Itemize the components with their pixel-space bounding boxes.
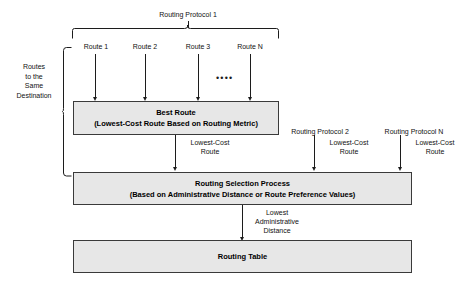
route-n-arrow-line (250, 54, 251, 98)
route-2-label: Route 2 (123, 42, 167, 51)
ellipsis-dots: •••• (216, 74, 233, 83)
lowest-cost-route-n-label: Lowest-CostRoute (404, 138, 466, 156)
routing-selection-process-title: Routing Selection Process (195, 178, 290, 189)
routing-selection-process-subtitle: (Based on Administrative Distance or Rou… (130, 189, 356, 200)
lowest-cost-route-n-line (400, 135, 401, 168)
routing-protocol-1-label: Routing Protocol 1 (140, 10, 236, 19)
best-route-subtitle: (Lowest-Cost Route Based on Routing Metr… (94, 118, 258, 129)
lowest-cost-route-n-arrowhead (398, 167, 402, 171)
route-3-arrow-line (198, 54, 199, 98)
lowest-cost-route-2-line (314, 135, 315, 168)
routing-table-box: Routing Table (73, 240, 412, 273)
routing-table-title: Routing Table (218, 251, 267, 262)
lowest-cost-route-1-arrowhead (173, 167, 177, 171)
route-3-label: Route 3 (176, 42, 220, 51)
routing-selection-process-box: Routing Selection Process (Based on Admi… (73, 172, 412, 205)
lowest-cost-route-1-line (175, 135, 176, 168)
route-n-label: Route N (228, 42, 272, 51)
route-2-arrow-line (145, 54, 146, 98)
routing-protocol-2-label: Routing Protocol 2 (273, 127, 367, 136)
route-1-label: Route 1 (74, 42, 118, 51)
routing-protocol-1-bracket (72, 25, 279, 39)
lowest-cost-route-2-label: Lowest-CostRoute (318, 138, 380, 156)
routes-same-destination-label: Routesto theSameDestination (6, 62, 62, 100)
lowest-cost-route-1-label: Lowest-CostRoute (179, 138, 241, 156)
lowest-cost-route-2-arrowhead (312, 167, 316, 171)
routing-protocol-n-label: Routing Protocol N (367, 127, 461, 136)
routing-selection-diagram: Routing Protocol 1 Route 1 Route 2 Route… (0, 0, 469, 289)
routing-protocol-1-tick (188, 21, 189, 28)
lowest-admin-distance-label: LowestAdministrativeDistance (246, 208, 308, 235)
lowest-admin-distance-line (242, 205, 243, 238)
route-1-arrow-line (95, 54, 96, 98)
best-route-title: Best Route (156, 107, 196, 118)
routes-same-destination-bracket (62, 47, 72, 177)
best-route-box: Best Route (Lowest-Cost Route Based on R… (73, 101, 279, 135)
